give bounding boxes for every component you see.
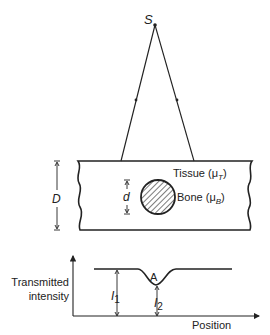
- point-a-label: A: [150, 271, 158, 283]
- tissue-label: Tissue (μT): [173, 167, 227, 182]
- i2-label: I2: [154, 296, 163, 312]
- bone-label: Bone (μB): [177, 191, 225, 206]
- beam-right-marker: [176, 99, 179, 102]
- bone-circle: [141, 180, 175, 214]
- xray-source: S: [144, 12, 157, 27]
- diagram-canvas: S Tissue (μT) D Bone (μB) d: [0, 0, 270, 335]
- x-axis-label: Position: [192, 319, 231, 331]
- xray-attenuation-diagram: S Tissue (μT) D Bone (μB) d: [0, 0, 270, 335]
- y-axis-label-line1: Transmitted: [11, 276, 69, 288]
- beam-left-marker: [135, 99, 138, 102]
- intensity-graph: I1 I2 A Transmitted intensity Position: [11, 256, 259, 331]
- source-label: S: [144, 12, 153, 27]
- bone-diameter-label: d: [123, 190, 130, 204]
- i1-label: I1: [111, 289, 120, 305]
- intensity-curve: [94, 269, 232, 285]
- beam-right: [155, 25, 194, 161]
- beam-left: [121, 25, 155, 161]
- beam-lines: [121, 25, 194, 161]
- slab-thickness-label: D: [52, 192, 61, 206]
- y-axis-label-line2: intensity: [29, 290, 70, 302]
